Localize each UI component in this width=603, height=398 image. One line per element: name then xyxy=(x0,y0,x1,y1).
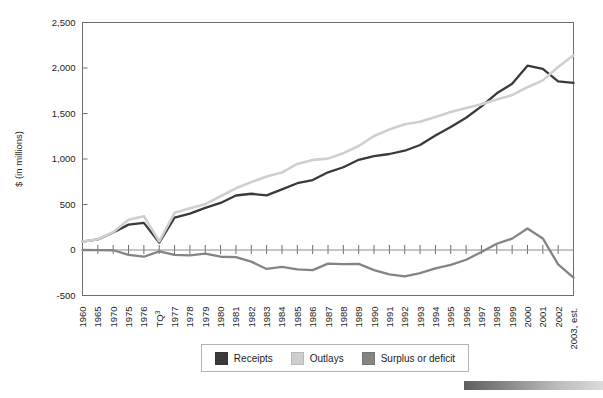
x-tick-label: 1978 xyxy=(184,306,195,327)
x-tick-label: 1981 xyxy=(230,306,241,327)
x-tick-label: 1986 xyxy=(307,306,318,327)
legend-label: Receipts xyxy=(234,353,273,364)
x-tick-label: 1970 xyxy=(108,306,119,327)
y-tick-label: 1,000 xyxy=(52,153,76,164)
x-tick-label: 2001 xyxy=(537,306,548,327)
x-tick-label: 1984 xyxy=(276,306,287,327)
footer-gradient-bar xyxy=(464,381,603,390)
y-tick-label: -500 xyxy=(56,290,75,301)
x-tick-label: 2002 xyxy=(553,306,564,327)
x-tick-label: 1976 xyxy=(138,306,149,327)
x-tick-label: 1989 xyxy=(353,306,364,327)
x-tick-label: 1960 xyxy=(77,306,88,327)
x-tick-label: 1995 xyxy=(445,306,456,327)
y-axis-ticks xyxy=(83,23,88,296)
x-tick-label: 1980 xyxy=(215,306,226,327)
y-axis-title: $ (in millions) xyxy=(13,131,24,187)
x-tick-label: 1990 xyxy=(369,306,380,327)
x-tick-label: 1991 xyxy=(384,306,395,327)
line-chart-plot: -50005001,0001,5002,0002,500 19601965197… xyxy=(0,0,603,398)
x-tick-label: 1987 xyxy=(323,306,334,327)
legend-item-outlays[interactable]: Outlays xyxy=(291,352,344,365)
y-tick-label: 2,500 xyxy=(52,17,76,28)
legend-item-surplus-or-deficit[interactable]: Surplus or deficit xyxy=(362,352,455,365)
x-tick-label: 1993 xyxy=(415,306,426,327)
y-tick-label: 1,500 xyxy=(52,108,76,119)
series-line-receipts xyxy=(83,66,574,243)
y-tick-label: 2,000 xyxy=(52,62,76,73)
x-tick-label: 1982 xyxy=(246,306,257,327)
x-tick-label: 2000 xyxy=(522,306,533,327)
series-lines xyxy=(83,55,574,277)
x-tick-label: 1999 xyxy=(507,306,518,327)
legend-swatch-icon xyxy=(215,352,228,365)
x-tick-label: 1988 xyxy=(338,306,349,327)
y-tick-label: 0 xyxy=(70,244,75,255)
x-tick-label: 1997 xyxy=(476,306,487,327)
x-tick-label: 1965 xyxy=(92,306,103,327)
series-line-outlays xyxy=(83,55,574,241)
x-tick-label: 2003, est. xyxy=(568,308,579,350)
x-tick-label: 1983 xyxy=(261,306,272,327)
x-tick-label: TQ3 xyxy=(154,310,165,327)
x-tick-label: 1975 xyxy=(123,306,134,327)
x-tick-label: 1977 xyxy=(169,306,180,327)
chart-container: -50005001,0001,5002,0002,500 19601965197… xyxy=(0,0,603,398)
x-tick-label: 1998 xyxy=(491,306,502,327)
x-tick-label: 1979 xyxy=(200,306,211,327)
legend-swatch-icon xyxy=(291,352,304,365)
y-axis-title-text: $ (in millions) xyxy=(13,131,24,187)
x-tick-label: 1994 xyxy=(430,306,441,327)
y-tick-label: 500 xyxy=(60,199,76,210)
y-axis-tick-labels: -50005001,0001,5002,0002,500 xyxy=(52,17,76,301)
chart-legend: ReceiptsOutlaysSurplus or deficit xyxy=(201,344,469,372)
legend-label: Surplus or deficit xyxy=(381,353,455,364)
x-tick-label: 1985 xyxy=(292,306,303,327)
x-tick-label: 1996 xyxy=(461,306,472,327)
x-tick-label: 1992 xyxy=(399,306,410,327)
legend-swatch-icon xyxy=(362,352,375,365)
legend-item-receipts[interactable]: Receipts xyxy=(215,352,273,365)
legend-label: Outlays xyxy=(310,353,344,364)
